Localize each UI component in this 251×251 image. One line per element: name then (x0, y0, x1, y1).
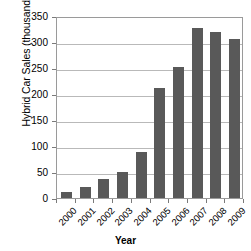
bar (173, 67, 184, 198)
y-axis-tick-label: 100 (4, 142, 48, 152)
bar (229, 39, 240, 198)
bar (192, 28, 203, 198)
plot-area (56, 17, 243, 199)
x-axis-tick-mark (206, 199, 207, 203)
y-axis-tick-label: 50 (4, 168, 48, 178)
hybrid-car-sales-bar-chart: Hybrid Car Sales (thousands) 05010015020… (0, 0, 251, 251)
bar (117, 172, 128, 198)
y-axis-tick-label: 350 (4, 12, 48, 22)
bar (136, 152, 147, 198)
x-axis-tick-mark (131, 199, 132, 203)
y-axis-tick-label: 200 (4, 90, 48, 100)
x-axis-tick-mark (93, 199, 94, 203)
bars-group (57, 18, 242, 198)
y-axis-tick-label: 300 (4, 38, 48, 48)
x-axis-tick-mark (112, 199, 113, 203)
y-axis-tick-label: 150 (4, 116, 48, 126)
x-axis-tick-mark (75, 199, 76, 203)
bar (61, 192, 72, 198)
x-axis-tick-mark (150, 199, 151, 203)
x-axis-tick-mark (187, 199, 188, 203)
x-axis-tick-mark (243, 199, 244, 203)
x-axis-tick-mark (168, 199, 169, 203)
bar (154, 88, 165, 198)
bar (98, 179, 109, 198)
bar (210, 32, 221, 198)
x-axis-tick-mark (224, 199, 225, 203)
y-axis-tick-label: 250 (4, 64, 48, 74)
y-axis-tick-label: 0 (4, 194, 48, 204)
bar (80, 187, 91, 198)
x-axis-title: Year (0, 235, 251, 246)
x-axis-tick-mark (56, 199, 57, 203)
